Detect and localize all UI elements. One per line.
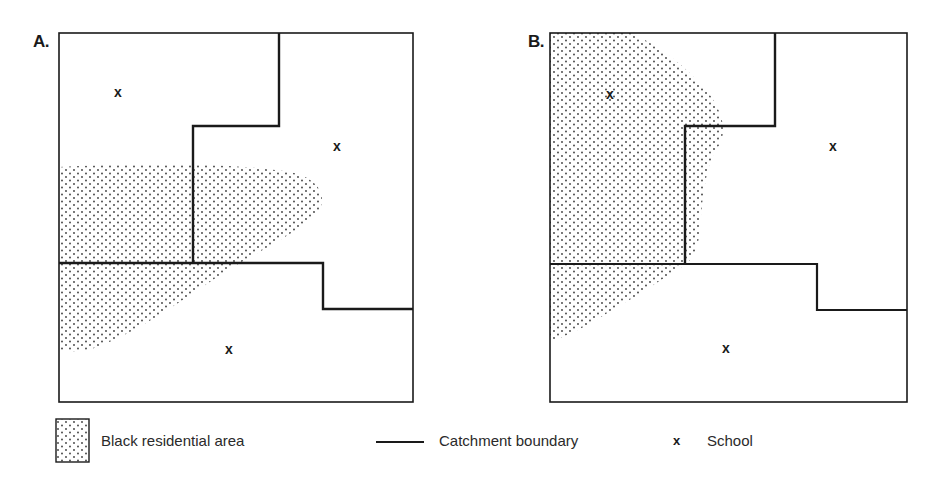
panel-a-residential-area: [59, 164, 322, 351]
school-marker-b1: x: [606, 86, 614, 102]
panel-a-label: A.: [33, 32, 49, 52]
school-marker-b3: x: [722, 340, 730, 356]
legend-residential-label: Black residential area: [101, 432, 244, 449]
panel-b-residential-area: [550, 33, 723, 340]
panel-a-map: [59, 33, 413, 402]
school-marker-a3: x: [225, 341, 233, 357]
school-marker-a2: x: [333, 138, 341, 154]
legend-residential-swatch: [56, 419, 89, 462]
school-marker-b2: x: [829, 138, 837, 154]
legend-school-label: School: [707, 432, 753, 449]
panel-b-label: B.: [528, 32, 544, 52]
catchment-diagram: [0, 0, 932, 479]
school-marker-a1: x: [114, 84, 122, 100]
legend-school-icon: x: [673, 433, 680, 448]
legend-boundary-label: Catchment boundary: [439, 432, 578, 449]
